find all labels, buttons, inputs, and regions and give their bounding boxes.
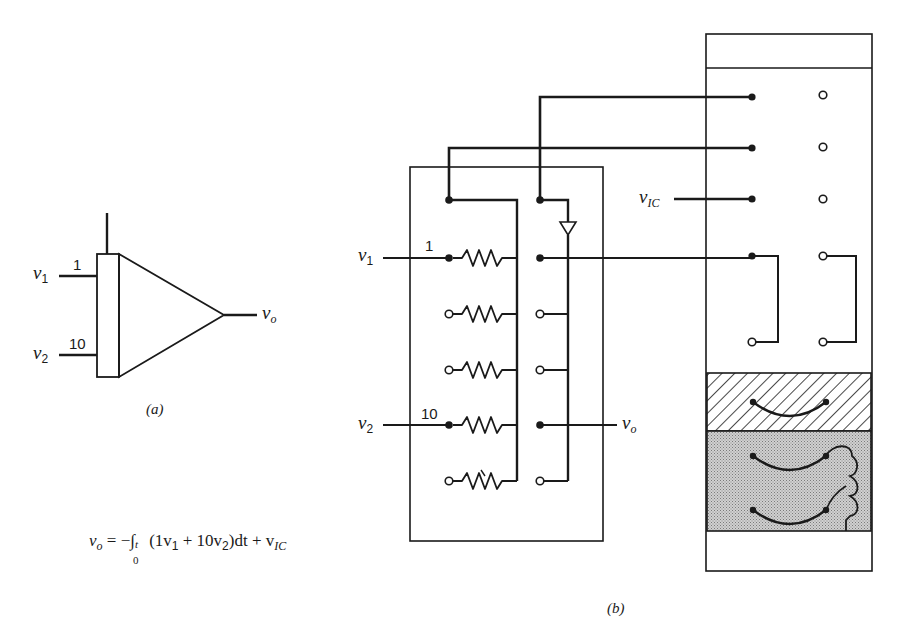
stippled-section [707,431,871,531]
panel-b-vo-label: vo [622,413,636,432]
panel-b-vic-label: vIC [639,187,659,206]
diode-icon [560,222,576,235]
jumper-right [822,256,856,342]
open-jack-icon [748,91,827,346]
amplifier-triangle [119,254,224,377]
panel-a-gain-1: 1 [73,257,81,272]
summing-bus [449,200,517,481]
hatched-section [707,373,871,431]
resistor-board [383,97,752,541]
patch-panel [674,34,872,571]
panel-a-vo-label: vo [262,303,276,322]
panel-b-v1-label: v1 [358,245,373,264]
output-bus [540,200,568,222]
panel-a-v2-label: v2 [33,343,48,362]
jumper-left [752,256,778,342]
filled-node-icon [445,196,544,429]
panel-b-caption: (b) [607,600,625,617]
open-node-icon [445,310,544,485]
panel-b-v2-label: v2 [358,413,373,432]
panel-a-v1-label: v1 [33,263,48,282]
integrator-equation: vo = −∫t0 (1v1 + 10v2)dt + vIC [89,531,286,551]
panel-a-caption: (a) [146,401,164,418]
panel-b-gain-1: 1 [425,238,433,253]
resistor-icon [453,250,517,489]
panel-a-gain-10: 10 [69,336,86,351]
integrator-symbol [59,213,257,377]
panel-b-gain-10: 10 [421,406,438,421]
input-block [97,254,119,377]
filled-jack-icon [748,93,755,259]
